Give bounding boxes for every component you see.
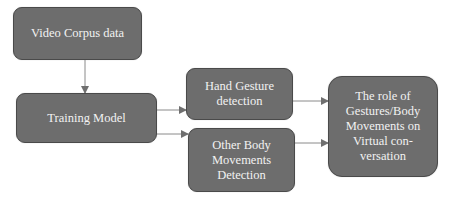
node-label-line: Virtual con- [353,134,413,149]
node-label-line: Gestures/Body [346,104,420,119]
node-role: The role of Gestures/Body Movements on V… [328,76,438,177]
node-hand-gesture: Hand Gesture detection [186,68,293,120]
node-label-line: detection [217,94,263,109]
node-label-line: Hand Gesture [205,79,274,94]
node-other-body: Other Body Movements Detection [188,128,295,192]
node-label-line: versation [360,149,406,164]
node-label-line: Movements on [346,119,421,134]
node-label-line: Detection [217,168,266,183]
node-training-model: Training Model [16,93,157,143]
node-label-line: Video Corpus data [31,26,124,41]
node-video-corpus: Video Corpus data [13,7,142,60]
node-label-line: Movements [212,153,271,168]
node-label-line: The role of [355,89,411,104]
node-label-line: Training Model [47,111,125,126]
flowchart-canvas: Video Corpus data Training Model Hand Ge… [0,0,451,202]
node-label-line: Other Body [212,138,271,153]
